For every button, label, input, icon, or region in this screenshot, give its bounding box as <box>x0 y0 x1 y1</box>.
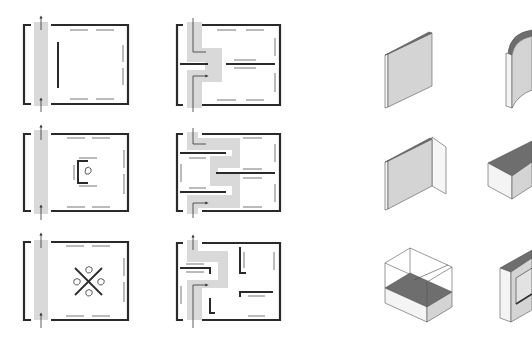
iso-vitrine <box>385 248 452 322</box>
circulation-path <box>34 240 48 320</box>
plan-serpentine <box>177 128 280 218</box>
iso-flat-panel <box>385 32 432 108</box>
plan-linear-with-alcove <box>24 126 128 220</box>
plan-linear-side-corridor <box>24 17 128 112</box>
plan-branching-rooms <box>177 236 280 328</box>
circulation-path <box>34 22 48 106</box>
plan-offset-central-spine <box>177 18 280 112</box>
iso-curved-wall <box>506 30 532 108</box>
diagram-canvas <box>0 0 532 342</box>
exhibit-object-icon <box>86 290 92 297</box>
iso-corner-wall <box>385 137 446 210</box>
iso-wall-case <box>500 250 532 322</box>
circulation-path <box>34 130 48 214</box>
plan-linear-with-crossed-objects <box>24 234 128 328</box>
exhibit-object-icon <box>74 279 80 286</box>
exhibit-object-icon <box>86 267 92 274</box>
dashed-inner-lines <box>70 30 123 99</box>
iso-block-plinth <box>488 141 532 199</box>
exhibit-object-icon <box>98 279 104 286</box>
dashed-inner-lines <box>67 138 124 207</box>
exhibit-object-icon <box>85 167 91 174</box>
